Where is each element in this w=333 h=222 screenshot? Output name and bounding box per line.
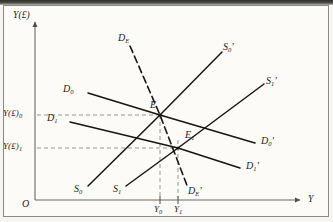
equilibrium-label-E: E xyxy=(150,100,156,110)
curve-label-d1p-prime: ' xyxy=(257,160,259,171)
equilibrium-E-main: E xyxy=(150,99,156,110)
curve-label-d0-prime: D0' xyxy=(261,136,274,146)
y-tick-1-main: Y(£) xyxy=(3,141,19,151)
curve-label-s0p-prime: ' xyxy=(231,41,233,52)
curve-label-s0-prime: S0' xyxy=(223,42,234,52)
chart-canvas xyxy=(0,0,333,222)
axis-group xyxy=(35,22,300,200)
curve-label-dep-prime: ' xyxy=(199,185,201,196)
curve-label-s0: S0 xyxy=(74,184,82,194)
x-tick-1-sub: 1 xyxy=(179,208,182,215)
equilibrium-point-E xyxy=(158,113,161,116)
x-axis-title: Y xyxy=(308,195,313,205)
curve-s1 xyxy=(126,84,264,186)
curve-label-d0p-sub: 0 xyxy=(268,140,271,147)
curve-label-d1-prime: D1' xyxy=(246,161,259,171)
curve-label-s1p-sub: 1 xyxy=(271,80,274,87)
curve-label-dep-sub: E xyxy=(195,190,199,197)
curve-label-d0: D0 xyxy=(63,84,74,94)
curve-label-de-prime: DE' xyxy=(188,186,202,196)
equilibrium-label-E1: E1 xyxy=(185,130,195,140)
curve-label-s1: S1 xyxy=(113,184,121,194)
curve-label-s0p-sub: 0 xyxy=(228,46,231,53)
curve-label-d0p-prime: ' xyxy=(272,135,274,146)
curve-label-s1-sub: 1 xyxy=(118,188,121,195)
curve-label-s1-prime: S1' xyxy=(266,76,277,86)
figure-container: Y(£) Y O Y(£)0 Y(£)1 Y0 Y1 D0 D1 D0' D1'… xyxy=(0,0,333,222)
y-tick-label-1: Y(£)1 xyxy=(3,142,22,151)
equilibrium-E1-sub: 1 xyxy=(191,134,194,141)
guide-lines xyxy=(37,115,178,198)
curve-label-d1-sub: 1 xyxy=(54,117,57,124)
curve-label-d1: D1 xyxy=(47,113,58,123)
y-tick-1-sub: 1 xyxy=(19,145,22,152)
y-axis-title: Y(£) xyxy=(13,11,30,21)
equilibrium-point-E1 xyxy=(176,146,179,149)
y-tick-label-0: Y(£)0 xyxy=(3,109,22,118)
curve-label-s1p-prime: ' xyxy=(274,75,276,86)
curve-d0 xyxy=(88,93,255,143)
y-tick-0-sub: 0 xyxy=(19,112,22,119)
curve-label-de-sub: E xyxy=(125,37,129,44)
curve-label-d1p-sub: 1 xyxy=(253,165,256,172)
curve-label-de: DE xyxy=(118,33,129,43)
x-tick-0-sub: 0 xyxy=(159,208,162,215)
curve-label-s0-sub: 0 xyxy=(79,188,82,195)
curve-s0 xyxy=(88,52,222,186)
curve-d1 xyxy=(70,122,240,168)
y-tick-0-main: Y(£) xyxy=(3,108,19,118)
curve-label-d0-sub: 0 xyxy=(70,88,73,95)
origin-label: O xyxy=(22,199,29,209)
x-tick-label-0: Y0 xyxy=(154,205,162,214)
x-tick-label-1: Y1 xyxy=(174,205,182,214)
